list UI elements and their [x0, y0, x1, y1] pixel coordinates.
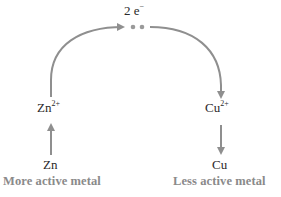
electron-count: 2	[124, 3, 131, 18]
zinc-metal-label: Zn	[43, 157, 57, 173]
copper-ion-charge: 2+	[220, 99, 229, 108]
arc-arrow-left	[51, 27, 123, 97]
copper-ion-label: Cu2+	[205, 100, 229, 116]
electron-charge: −	[140, 2, 145, 11]
zinc-ion-label: Zn2+	[37, 100, 60, 116]
zinc-ion-symbol: Zn	[37, 100, 51, 115]
zinc-ion-charge: 2+	[51, 99, 60, 108]
more-active-metal-caption: More active metal	[3, 174, 101, 189]
less-active-metal-caption: Less active metal	[173, 174, 266, 189]
electron-dot-1	[131, 25, 136, 30]
copper-ion-symbol: Cu	[205, 100, 220, 115]
electron-dot-2	[140, 25, 145, 30]
arc-arrow-right	[150, 27, 221, 97]
electron-symbol: e	[134, 3, 140, 18]
copper-metal-label: Cu	[212, 157, 227, 173]
electron-label: 2 e−	[124, 3, 144, 19]
